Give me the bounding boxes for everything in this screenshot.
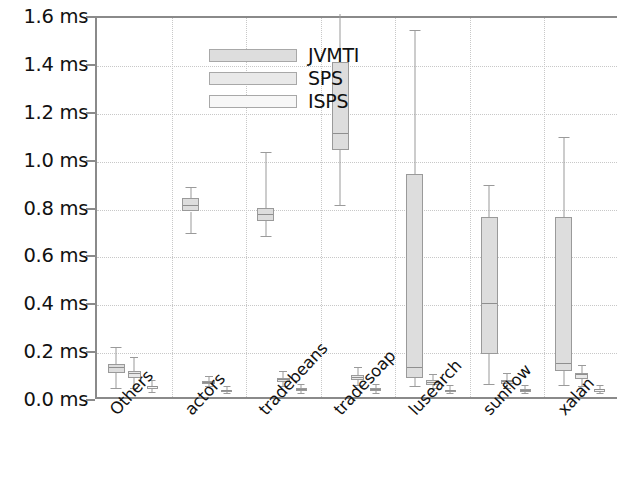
box-rect	[481, 217, 498, 353]
y-axis-tick-mark	[86, 64, 95, 66]
whisker-cap-lower	[484, 384, 495, 385]
whisker-upper	[489, 186, 490, 217]
median-line	[556, 363, 571, 364]
median-line	[595, 389, 604, 390]
median-line	[482, 303, 497, 304]
whisker-cap-lower	[185, 233, 196, 234]
y-axis-tick-label: 0.4 ms	[0, 292, 88, 315]
whisker-lower	[116, 373, 117, 389]
legend-label: SPS	[308, 69, 343, 88]
legend-item-isps: ISPS	[209, 90, 384, 113]
whisker-cap-lower	[260, 236, 271, 237]
y-axis-tick-mark	[86, 112, 95, 114]
box-sps-others	[128, 14, 141, 397]
whisker-cap-upper	[484, 185, 495, 186]
y-axis-tick-mark	[86, 160, 95, 162]
whisker-cap-lower	[372, 393, 379, 394]
whisker-cap-upper	[185, 187, 196, 188]
box-sps-lusearch	[426, 14, 439, 397]
whisker-lower	[489, 354, 490, 385]
whisker-cap-upper	[409, 30, 420, 31]
whisker-cap-upper	[354, 367, 362, 368]
box-isps-lusearch	[445, 14, 456, 397]
whisker-upper	[190, 188, 191, 199]
box-sps-xalan	[575, 14, 588, 397]
y-axis-tick-label: 1.0 ms	[0, 148, 88, 171]
whisker-upper	[265, 153, 266, 208]
box-jvmti-actors	[182, 14, 199, 397]
legend-swatch-jvmti	[209, 49, 297, 62]
y-axis-tick-label: 1.2 ms	[0, 100, 88, 123]
boxplot-group-xalan	[544, 18, 617, 397]
whisker-cap-upper	[130, 357, 138, 358]
box-rect	[257, 208, 274, 221]
box-rect	[555, 217, 572, 370]
legend-swatch-sps	[209, 72, 297, 85]
median-line	[407, 367, 422, 368]
whisker-cap-lower	[298, 393, 305, 394]
whisker-upper	[581, 366, 582, 373]
whisker-upper	[563, 138, 564, 217]
box-jvmti-xalan	[555, 14, 572, 397]
median-line	[297, 389, 306, 390]
y-axis-tick-mark	[86, 351, 95, 353]
y-axis-tick-label: 0.8 ms	[0, 196, 88, 219]
whisker-upper	[134, 358, 135, 371]
box-jvmti-others	[108, 14, 125, 397]
whisker-cap-upper	[558, 137, 569, 138]
y-axis-tick-label: 1.4 ms	[0, 52, 88, 75]
box-rect	[221, 390, 232, 393]
box-rect	[296, 388, 307, 391]
box-isps-sunflow	[520, 14, 531, 397]
box-rect	[406, 174, 423, 377]
boxplot-chart: JVMTISPSISPS 0.0 ms0.2 ms0.4 ms0.6 ms0.8…	[0, 0, 617, 487]
y-axis-tick-mark	[86, 16, 95, 18]
box-rect	[445, 390, 456, 393]
boxplot-group-lusearch	[395, 18, 470, 397]
whisker-lower	[563, 371, 564, 387]
boxplot-group-others	[97, 18, 172, 397]
y-axis-tick-label: 1.6 ms	[0, 5, 88, 28]
box-isps-others	[147, 14, 158, 397]
whisker-upper	[414, 31, 415, 175]
whisker-cap-lower	[558, 385, 569, 386]
median-line	[183, 205, 198, 206]
y-axis-tick-mark	[86, 399, 95, 401]
plot-area: JVMTISPSISPS	[95, 16, 617, 399]
box-jvmti-lusearch	[406, 14, 423, 397]
whisker-cap-lower	[223, 393, 230, 394]
whisker-cap-lower	[335, 205, 346, 206]
whisker-cap-upper	[111, 347, 122, 348]
whisker-cap-lower	[149, 392, 156, 393]
y-axis-tick-label: 0.6 ms	[0, 244, 88, 267]
box-rect	[108, 364, 125, 374]
median-line	[371, 389, 380, 390]
whisker-cap-upper	[260, 152, 271, 153]
whisker-lower	[340, 150, 341, 205]
box-sps-sunflow	[501, 14, 514, 397]
median-line	[446, 390, 455, 391]
median-line	[521, 390, 530, 391]
median-line	[222, 390, 231, 391]
legend-label: JVMTI	[308, 46, 359, 65]
box-rect	[182, 198, 199, 211]
y-axis-tick-mark	[86, 255, 95, 257]
median-line	[333, 133, 348, 134]
whisker-cap-lower	[111, 388, 122, 389]
whisker-lower	[265, 221, 266, 237]
y-axis-tick-mark	[86, 208, 95, 210]
chart-legend: JVMTISPSISPS	[209, 40, 384, 115]
y-axis-tick-mark	[86, 303, 95, 305]
y-axis-tick-label: 0.0 ms	[0, 388, 88, 411]
y-axis-tick-label: 0.2 ms	[0, 340, 88, 363]
box-rect	[594, 389, 605, 392]
whisker-cap-lower	[409, 386, 420, 387]
whisker-cap-lower	[596, 393, 603, 394]
box-jvmti-sunflow	[481, 14, 498, 397]
box-isps-xalan	[594, 14, 605, 397]
box-rect	[520, 389, 531, 392]
whisker-lower	[190, 212, 191, 235]
median-line	[109, 367, 124, 368]
median-line	[258, 214, 273, 215]
boxplot-group-sunflow	[470, 18, 545, 397]
